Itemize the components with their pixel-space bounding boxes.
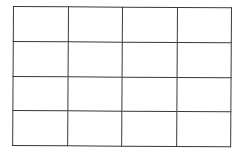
- grid-cell: [13, 7, 68, 42]
- grid-cell: [177, 8, 232, 43]
- grid-cell: [67, 76, 122, 111]
- grid-cell: [122, 77, 177, 112]
- grid-cell: [67, 111, 122, 146]
- grid-cell: [13, 76, 68, 111]
- grid-cell: [176, 77, 231, 112]
- grid-cell: [122, 111, 177, 146]
- grid-row: [13, 111, 231, 147]
- grid-diagram: [12, 6, 232, 147]
- grid-row: [13, 41, 231, 77]
- empty-grid-table: [12, 6, 232, 147]
- grid-cell: [68, 42, 123, 77]
- grid-cell: [177, 42, 232, 77]
- grid-cell: [122, 42, 177, 77]
- grid-cell: [122, 7, 177, 42]
- grid-row: [13, 7, 231, 43]
- grid-cell: [176, 112, 231, 147]
- grid-cell: [13, 41, 68, 76]
- grid-cell: [68, 7, 123, 42]
- grid-row: [13, 76, 231, 112]
- grid-cell: [13, 111, 68, 146]
